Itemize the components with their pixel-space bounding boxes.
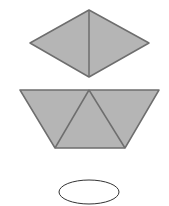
rhombus-shape (30, 10, 149, 77)
diagram-canvas (0, 0, 169, 206)
answer-oval (59, 180, 119, 204)
trapezoid-shape (20, 90, 159, 148)
